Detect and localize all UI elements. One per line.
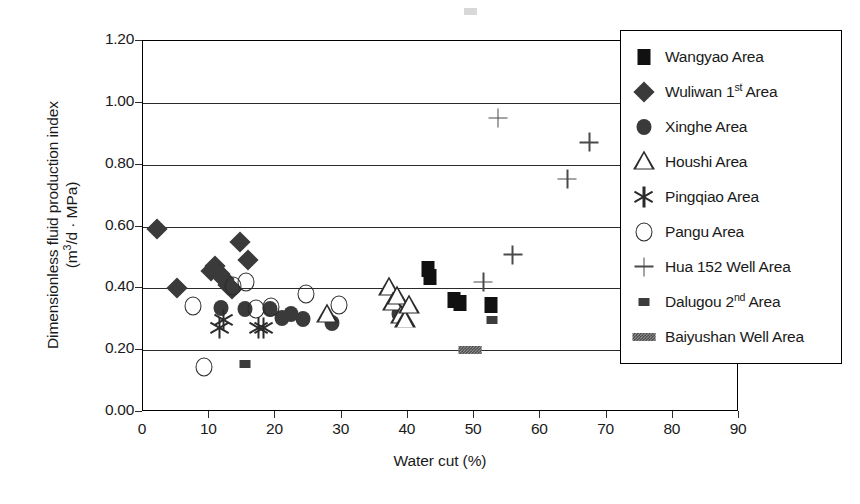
legend-marker-small-filled-square-icon xyxy=(639,298,650,306)
legend-label: Houshi Area xyxy=(665,153,747,171)
y-tick-label: 1.00 xyxy=(105,92,134,110)
data-point xyxy=(263,297,280,316)
legend-marker-plus-icon xyxy=(635,257,654,276)
data-point xyxy=(213,310,234,331)
legend: Wangyao AreaWuliwan 1st AreaXinghe AreaH… xyxy=(620,30,842,364)
legend-swatch-small-filled-square-icon xyxy=(633,291,659,313)
data-point xyxy=(296,311,311,327)
legend-item-6[interactable]: Hua 152 Well Area xyxy=(621,249,841,284)
y-tick-mark xyxy=(135,411,142,412)
data-point xyxy=(253,317,274,338)
legend-swatch-open-triangle-icon xyxy=(633,151,659,173)
y-tick-label: 0.80 xyxy=(105,154,134,172)
data-point xyxy=(558,169,577,188)
x-tick-label: 10 xyxy=(188,420,228,438)
data-point xyxy=(331,295,348,314)
x-tick-label: 90 xyxy=(718,420,758,438)
y-tick-label: 0.60 xyxy=(105,216,134,234)
x-tick-mark xyxy=(473,411,474,418)
legend-marker-asterisk-icon xyxy=(634,186,655,207)
data-point xyxy=(146,218,167,239)
data-point xyxy=(238,272,255,291)
y-tick-label: 1.20 xyxy=(105,30,134,48)
legend-marker-filled-square-icon xyxy=(638,49,651,65)
y-tick-label: 0.00 xyxy=(105,401,134,419)
y-tick-mark xyxy=(135,226,142,227)
legend-item-4[interactable]: Pingqiao Area xyxy=(621,179,841,214)
data-point xyxy=(580,133,599,152)
data-point xyxy=(503,245,522,264)
scan-artifact xyxy=(464,8,477,15)
data-point xyxy=(424,269,437,285)
legend-item-0[interactable]: Wangyao Area xyxy=(621,39,841,74)
x-tick-label: 30 xyxy=(321,420,361,438)
legend-marker-open-triangle-icon xyxy=(633,150,655,169)
y-tick-label: 0.20 xyxy=(105,339,134,357)
legend-swatch-asterisk-icon xyxy=(633,186,659,208)
legend-swatch-hatched-bar-icon xyxy=(633,326,659,348)
x-tick-label: 80 xyxy=(652,420,692,438)
y-tick-mark xyxy=(135,102,142,103)
data-point xyxy=(247,300,264,319)
legend-label: Pingqiao Area xyxy=(665,188,759,206)
legend-item-7[interactable]: Dalugou 2nd Area xyxy=(621,284,841,319)
legend-item-8[interactable]: Baiyushan Well Area xyxy=(621,319,841,354)
data-point xyxy=(488,108,507,127)
x-tick-label: 50 xyxy=(453,420,493,438)
data-point xyxy=(486,316,497,324)
figure: Dimensionless fluid production index (m3… xyxy=(0,0,860,504)
x-tick-label: 20 xyxy=(254,420,294,438)
legend-swatch-filled-circle-icon xyxy=(633,116,659,138)
y-axis-title-line1: Dimensionless fluid production index xyxy=(44,101,61,349)
y-tick-mark xyxy=(135,349,142,350)
data-point xyxy=(474,273,493,292)
x-tick-mark xyxy=(606,411,607,418)
legend-label: Pangu Area xyxy=(665,223,744,241)
y-axis-title: Dimensionless fluid production index (m3… xyxy=(43,45,81,405)
legend-item-2[interactable]: Xinghe Area xyxy=(621,109,841,144)
x-tick-label: 40 xyxy=(387,420,427,438)
y-tick-mark xyxy=(135,40,142,41)
data-point xyxy=(185,296,202,315)
x-tick-mark xyxy=(341,411,342,418)
x-tick-mark xyxy=(672,411,673,418)
x-axis-title: Water cut (%) xyxy=(142,452,738,470)
x-tick-label: 70 xyxy=(586,420,626,438)
data-point xyxy=(297,284,314,303)
data-point xyxy=(459,346,482,354)
data-point xyxy=(195,358,212,377)
y-tick-label: 0.40 xyxy=(105,277,134,295)
y-tick-mark xyxy=(135,164,142,165)
legend-item-1[interactable]: Wuliwan 1st Area xyxy=(621,74,841,109)
legend-swatch-filled-square-icon xyxy=(633,46,659,68)
legend-swatch-filled-diamond-icon xyxy=(633,81,659,103)
legend-label: Wangyao Area xyxy=(665,48,764,66)
data-point xyxy=(239,360,250,368)
legend-marker-filled-diamond-icon xyxy=(633,81,654,102)
legend-label: Wuliwan 1st Area xyxy=(665,83,777,101)
x-tick-label: 60 xyxy=(519,420,559,438)
x-tick-label: 0 xyxy=(122,420,162,438)
legend-item-5[interactable]: Pangu Area xyxy=(621,214,841,249)
legend-label: Dalugou 2nd Area xyxy=(665,293,780,311)
x-tick-mark xyxy=(274,411,275,418)
legend-marker-hatched-bar-icon xyxy=(633,333,656,341)
y-tick-mark xyxy=(135,287,142,288)
y-axis-title-line2: (m3/d · MPa) xyxy=(62,45,81,405)
x-tick-mark xyxy=(407,411,408,418)
legend-marker-filled-circle-icon xyxy=(637,119,652,135)
x-tick-mark xyxy=(539,411,540,418)
data-point xyxy=(237,250,258,271)
legend-marker-open-circle-icon xyxy=(636,222,653,241)
data-point xyxy=(453,295,466,311)
legend-label: Xinghe Area xyxy=(665,118,747,136)
legend-swatch-open-circle-icon xyxy=(633,221,659,243)
legend-label: Hua 152 Well Area xyxy=(665,258,791,276)
legend-label: Baiyushan Well Area xyxy=(665,328,804,346)
data-point xyxy=(398,295,420,314)
x-tick-mark xyxy=(738,411,739,418)
legend-item-3[interactable]: Houshi Area xyxy=(621,144,841,179)
legend-swatch-plus-icon xyxy=(633,256,659,278)
x-tick-mark xyxy=(208,411,209,418)
data-point xyxy=(485,297,498,313)
